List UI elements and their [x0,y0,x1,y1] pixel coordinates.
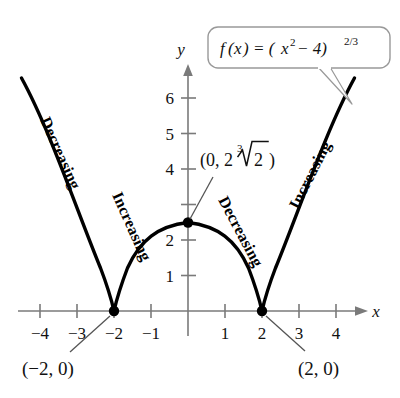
x-tick-label: −1 [142,324,160,343]
annotation-right-zero: (2, 0) [298,358,339,380]
formula-callout: f ( x ) = ( x 2 − 4) 2/3 [208,27,390,104]
formula-exponent-two-thirds: 2/3 [344,35,359,47]
y-tick-label: 2 [166,231,175,250]
x-axis-arrow [355,306,368,316]
x-tick-label: 4 [332,324,341,343]
axis-lines [18,64,368,336]
y-axis-tick-labels: 1 2 4 5 6 [166,89,175,286]
formula-x-squared-base: x [280,39,289,58]
point-marker-right-zero [257,306,267,316]
point-marker-local-maximum [183,217,193,227]
max-label-suffix: ) [269,150,275,171]
x-tick-label: −2 [105,324,123,343]
function-graph-figure: −4 −3 −2 −1 1 2 3 4 1 2 4 5 6 x y (−2, 0… [0,0,400,398]
y-axis-name: y [175,40,185,59]
y-tick-label: 5 [166,125,175,144]
max-label-prefix: (0, 2 [200,150,233,171]
x-tick-label: 3 [295,324,304,343]
x-axis-name: x [371,302,380,321]
curve-branch-left-decreasing [22,78,115,311]
formula-equals: ) = ( [242,39,276,58]
x-tick-label: 1 [221,324,230,343]
y-tick-label: 1 [166,267,175,286]
x-tick-label: −4 [31,324,50,343]
formula-variable: x [233,39,242,58]
callout-seam-mask [318,62,331,69]
label-increasing-left: Increasing [108,189,154,264]
radical-index: 3 [237,142,243,154]
formula-exponent-two: 2 [290,36,296,48]
x-axis-tick-labels: −4 −3 −2 −1 1 2 3 4 [31,324,341,343]
annotation-local-maximum: (0, 2 3 2 ) [200,142,275,172]
formula-minus-four: − 4) [297,39,327,58]
label-decreasing-left: Decreasing [36,114,84,192]
label-decreasing-right: Decreasing [214,193,266,270]
y-tick-label: 6 [166,89,175,108]
callout-pointer [318,67,352,104]
y-axis-arrow [183,64,193,76]
x-tick-label: 2 [258,324,267,343]
radical-sign [238,142,268,167]
max-label-radicand: 2 [254,150,263,170]
leader-line-local-maximum [190,177,213,219]
label-increasing-right: Increasing [286,138,336,212]
point-marker-left-zero [109,306,119,316]
y-tick-label: 4 [166,160,175,179]
annotation-left-zero: (−2, 0) [22,358,74,380]
